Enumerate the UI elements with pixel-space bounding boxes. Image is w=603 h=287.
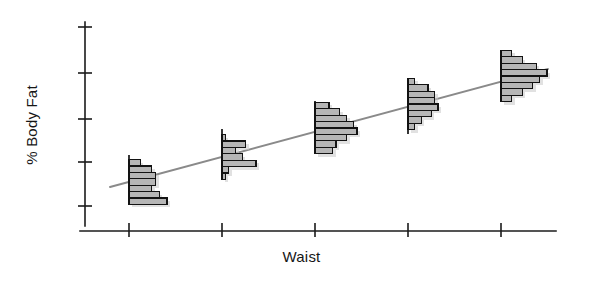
histogram-bar — [501, 57, 522, 63]
histogram-group-3 — [315, 101, 360, 157]
x-axis — [80, 223, 556, 237]
histogram-bar — [222, 147, 236, 153]
histogram-bar — [222, 154, 242, 160]
histogram-bar — [129, 198, 167, 204]
y-axis-title: % Body Fat — [23, 85, 40, 165]
histogram-bar — [501, 82, 533, 88]
histogram-bar — [408, 123, 415, 129]
histogram-group-5 — [501, 50, 550, 105]
histogram-bar — [501, 50, 512, 56]
histogram-bar — [408, 91, 435, 97]
x-axis-title: Waist — [0, 248, 603, 265]
histogram-bar — [315, 141, 336, 147]
histogram-bar — [408, 98, 435, 104]
histogram-bar — [501, 89, 522, 95]
histogram-bar — [408, 85, 428, 91]
histogram-bar — [408, 110, 431, 116]
histogram-bar — [129, 192, 159, 198]
histogram-bar — [315, 102, 329, 108]
histogram-bar — [315, 115, 347, 121]
plot-area — [0, 0, 603, 287]
histogram-bar — [315, 109, 340, 115]
histogram-bar — [222, 160, 256, 166]
histogram-group-1 — [129, 155, 170, 207]
conditional-histograms — [129, 50, 550, 207]
histogram-bar — [129, 179, 156, 185]
histogram-bar — [129, 166, 152, 172]
histogram-bar — [129, 160, 140, 166]
histogram-bar — [129, 172, 156, 178]
body-fat-vs-waist-figure: % Body Fat Waist — [0, 0, 603, 287]
histogram-bar — [129, 185, 152, 191]
histogram-bar — [315, 122, 354, 128]
histogram-bar — [501, 95, 512, 101]
histogram-bar — [408, 104, 438, 110]
histogram-bar — [222, 167, 229, 173]
y-axis — [78, 22, 92, 226]
histogram-bar — [315, 134, 347, 140]
histogram-group-4 — [408, 78, 441, 134]
histogram-bar — [501, 76, 540, 82]
histogram-bar — [222, 141, 246, 147]
y-axis-title-wrap: % Body Fat — [10, 0, 52, 250]
histogram-bar — [501, 63, 536, 69]
histogram-bar — [408, 117, 421, 123]
histogram-bar — [315, 128, 357, 134]
histogram-bar — [315, 147, 333, 153]
histogram-group-2 — [222, 129, 259, 182]
histogram-bar — [408, 78, 415, 84]
histogram-bar — [501, 70, 547, 76]
